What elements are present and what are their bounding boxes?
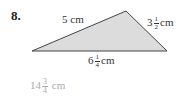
side-right-whole: 3 xyxy=(147,16,153,28)
side-label-bottom: 614cm xyxy=(88,54,114,69)
answer-fraction: 34 xyxy=(42,78,48,95)
side-right-den: 2 xyxy=(154,24,160,31)
answer-whole: 14 xyxy=(30,79,41,91)
side-left-value: 5 xyxy=(62,13,68,25)
side-right-fraction: 12 xyxy=(154,16,160,31)
side-bottom-whole: 6 xyxy=(88,54,94,66)
side-label-left: 5 cm xyxy=(62,13,84,25)
side-bottom-fraction: 14 xyxy=(95,54,101,69)
answer-perimeter: 1434 cm xyxy=(30,78,65,95)
side-bottom-unit: cm xyxy=(101,54,114,66)
answer-unit: cm xyxy=(52,79,65,91)
answer-den: 4 xyxy=(42,87,48,95)
side-right-unit: cm xyxy=(160,16,173,28)
side-bottom-den: 4 xyxy=(95,62,101,69)
side-left-unit: cm xyxy=(70,13,83,25)
side-label-right: 312cm xyxy=(147,16,173,31)
